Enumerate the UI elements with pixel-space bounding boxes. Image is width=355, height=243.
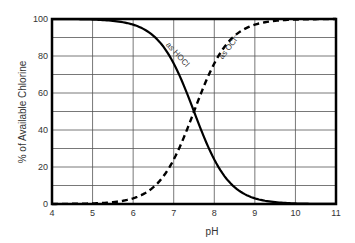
y-tick-label: 40	[38, 125, 48, 135]
y-tick-label: 20	[38, 162, 48, 172]
x-tick-label: 11	[331, 208, 340, 218]
x-tick-label: 5	[90, 208, 95, 218]
chart: 4567891011 020406080100 pH % of Availabl…	[0, 0, 355, 243]
y-axis-label: % of Available Chlorine	[17, 60, 28, 163]
x-tick-label: 10	[290, 208, 300, 218]
x-tick-label: 9	[252, 208, 257, 218]
y-tick-label: 80	[38, 51, 48, 61]
x-tick-label: 4	[49, 208, 54, 218]
x-tick-label: 8	[212, 208, 217, 218]
y-axis-ticks: 020406080100	[33, 14, 48, 209]
x-tick-label: 6	[131, 208, 136, 218]
y-tick-label: 100	[33, 14, 48, 24]
x-axis-label: pH	[206, 226, 219, 237]
y-tick-label: 0	[43, 199, 48, 209]
x-tick-label: 7	[171, 208, 176, 218]
y-tick-label: 60	[38, 88, 48, 98]
x-axis-ticks: 4567891011	[49, 208, 340, 218]
